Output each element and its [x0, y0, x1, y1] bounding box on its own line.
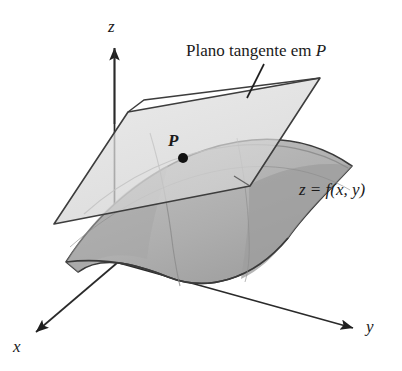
- tangent-plane-callout-text: Plano tangente em: [186, 41, 316, 60]
- point-p-label: P: [168, 132, 178, 149]
- tangent-plane-callout: Plano tangente em P: [186, 42, 326, 59]
- z-axis-label: z: [108, 18, 115, 35]
- y-axis-label: y: [366, 318, 374, 335]
- x-axis-label: x: [13, 338, 21, 355]
- point-p-dot: [178, 153, 188, 163]
- surface-equation-label: z = f(x, y): [299, 181, 365, 198]
- tangent-plane-figure: z x y Plano tangente em P z = f(x, y) P: [0, 0, 402, 371]
- x-axis: [36, 263, 117, 332]
- tangent-plane-callout-point: P: [316, 41, 326, 60]
